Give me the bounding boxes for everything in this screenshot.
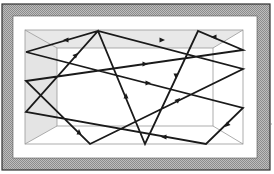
reflection-diagram: [0, 0, 274, 174]
ceiling: [25, 30, 243, 48]
stray-dot: [270, 123, 271, 124]
